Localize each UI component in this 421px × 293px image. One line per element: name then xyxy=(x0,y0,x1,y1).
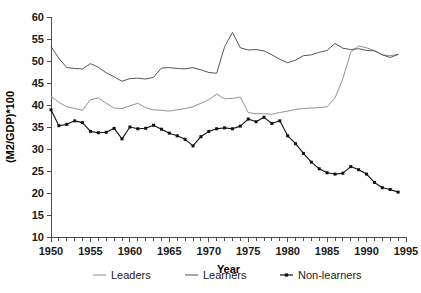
chart-container: 1015202530354045505560 19501955196019651… xyxy=(0,0,421,293)
legend-marker xyxy=(285,273,288,276)
data-point-marker xyxy=(152,124,155,127)
data-point-marker xyxy=(318,167,321,170)
data-point-marker xyxy=(357,168,360,171)
y-tick-label: 30 xyxy=(32,143,44,155)
data-point-marker xyxy=(65,123,68,126)
y-tick-label: 40 xyxy=(32,99,44,111)
legend-label-learners: Learners xyxy=(203,269,247,281)
y-tick-label: 25 xyxy=(32,165,44,177)
data-point-marker xyxy=(365,173,368,176)
data-point-marker xyxy=(381,186,384,189)
legend-label-leaders: Leaders xyxy=(111,269,151,281)
y-tick-label: 15 xyxy=(32,209,44,221)
data-point-marker xyxy=(247,118,250,121)
data-point-marker xyxy=(168,132,171,135)
data-point-marker xyxy=(373,181,376,184)
y-tick-label: 55 xyxy=(32,33,44,45)
data-point-marker xyxy=(278,119,281,122)
data-point-marker xyxy=(294,142,297,145)
data-point-marker xyxy=(270,122,273,125)
data-point-marker xyxy=(263,116,266,119)
data-point-marker xyxy=(144,127,147,130)
y-tick-label: 20 xyxy=(32,187,44,199)
data-point-marker xyxy=(97,131,100,134)
data-point-marker xyxy=(207,130,210,133)
data-point-marker xyxy=(349,165,352,168)
series-line-learners xyxy=(51,32,398,81)
data-point-marker xyxy=(223,126,226,129)
data-series-group xyxy=(50,32,400,193)
x-tick-label: 1950 xyxy=(39,245,63,257)
data-point-marker xyxy=(57,124,60,127)
y-axis: 1015202530354045505560 xyxy=(32,11,51,243)
x-tick-label: 1975 xyxy=(236,245,260,257)
data-point-marker xyxy=(231,127,234,130)
data-point-marker xyxy=(334,173,337,176)
x-tick-label: 1980 xyxy=(275,245,299,257)
data-point-marker xyxy=(389,188,392,191)
data-point-marker xyxy=(199,135,202,138)
x-tick-label: 1990 xyxy=(354,245,378,257)
x-tick-label: 1970 xyxy=(197,245,221,257)
chart-legend: LeadersLearnersNon-learners xyxy=(93,269,362,281)
line-chart: 1015202530354045505560 19501955196019651… xyxy=(0,0,421,293)
y-tick-label: 60 xyxy=(32,11,44,23)
data-point-marker xyxy=(113,127,116,130)
data-point-marker xyxy=(341,172,344,175)
x-tick-label: 1960 xyxy=(118,245,142,257)
y-tick-label: 35 xyxy=(32,121,44,133)
x-tick-label: 1995 xyxy=(394,245,418,257)
x-tick-label: 1965 xyxy=(157,245,181,257)
data-point-marker xyxy=(128,126,131,129)
data-point-marker xyxy=(192,144,195,147)
series-line-non-learners xyxy=(51,110,398,192)
data-point-marker xyxy=(215,127,218,130)
data-point-marker xyxy=(397,191,400,194)
data-point-marker xyxy=(50,108,53,111)
data-point-marker xyxy=(255,120,258,123)
data-point-marker xyxy=(89,130,92,133)
data-point-marker xyxy=(81,121,84,124)
x-axis: 1950195519601965197019751980198519901995 xyxy=(39,237,418,257)
y-tick-label: 10 xyxy=(32,231,44,243)
x-tick-label: 1985 xyxy=(315,245,339,257)
data-point-marker xyxy=(310,161,313,164)
data-point-marker xyxy=(176,134,179,137)
data-point-marker xyxy=(160,128,163,131)
y-tick-label: 50 xyxy=(32,55,44,67)
data-point-marker xyxy=(286,134,289,137)
data-point-marker xyxy=(326,171,329,174)
data-point-marker xyxy=(121,137,124,140)
data-point-marker xyxy=(136,127,139,130)
y-axis-title: (M2/GDP)*100 xyxy=(4,91,16,163)
y-tick-label: 45 xyxy=(32,77,44,89)
x-tick-label: 1955 xyxy=(78,245,102,257)
legend-label-non-learners: Non-learners xyxy=(298,269,362,281)
series-line-leaders xyxy=(51,46,398,114)
data-point-marker xyxy=(184,138,187,141)
data-point-marker xyxy=(73,119,76,122)
data-point-marker xyxy=(239,125,242,128)
data-point-marker xyxy=(302,152,305,155)
data-point-marker xyxy=(105,131,108,134)
